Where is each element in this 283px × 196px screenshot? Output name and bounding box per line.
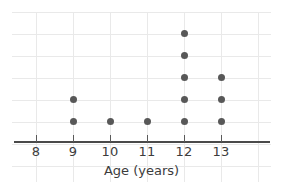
data-point [181, 74, 188, 81]
x-tick-12 [184, 135, 185, 142]
data-point [181, 118, 188, 125]
data-point [144, 118, 151, 125]
x-tick-label-11: 11 [132, 144, 162, 160]
chart-title-cropped [0, 0, 283, 4]
x-axis-title: Age (years) [0, 163, 283, 178]
grid-mask-bottom [0, 182, 283, 196]
x-tick-9 [73, 135, 74, 142]
data-point [181, 30, 188, 37]
x-axis-line [14, 141, 270, 143]
x-tick-13 [221, 135, 222, 142]
x-tick-label-13: 13 [206, 144, 236, 160]
data-point [107, 118, 114, 125]
x-tick-10 [110, 135, 111, 142]
x-tick-label-8: 8 [21, 144, 51, 160]
x-tick-label-9: 9 [58, 144, 88, 160]
x-tick-label-10: 10 [95, 144, 125, 160]
data-point [218, 118, 225, 125]
data-point [218, 96, 225, 103]
data-point [70, 118, 77, 125]
x-tick-11 [147, 135, 148, 142]
x-tick-label-12: 12 [169, 144, 199, 160]
dot-plot-chart: 8910111213 Age (years) [0, 0, 283, 196]
data-point [181, 96, 188, 103]
x-tick-8 [36, 135, 37, 142]
data-point [70, 96, 77, 103]
data-point [181, 52, 188, 59]
data-point [218, 74, 225, 81]
